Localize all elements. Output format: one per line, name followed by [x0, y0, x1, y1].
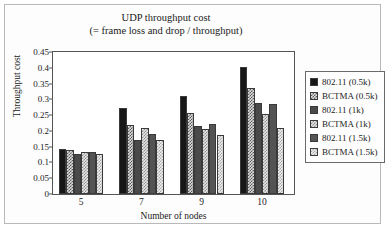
chart-title: UDP throughput cost (= frame loss and dr…	[35, 12, 297, 37]
bar	[247, 88, 254, 194]
bar	[81, 152, 88, 194]
y-axis-tick-label: 0.1	[38, 158, 49, 167]
bar	[240, 67, 247, 194]
x-axis-tick-label: 7	[139, 197, 144, 207]
bar	[141, 128, 148, 194]
bar	[194, 126, 201, 194]
y-axis-tick-label: 0.35	[33, 79, 49, 88]
plot-area	[53, 52, 294, 194]
legend-item: BCTMA (1k)	[310, 117, 381, 131]
x-axis-tick-label: 10	[257, 197, 267, 207]
y-axis-tick-label: 0.05	[33, 174, 49, 183]
legend-swatch-icon	[310, 106, 318, 114]
y-axis-tick-label: 0.4	[38, 63, 49, 72]
x-axis-tick-label: 5	[79, 197, 84, 207]
x-axis-title: Number of nodes	[52, 211, 295, 221]
legend-swatch-icon	[310, 78, 318, 86]
bar	[96, 154, 103, 194]
bar	[255, 103, 262, 194]
legend-item: 802.11 (0.5k)	[310, 75, 381, 89]
bar	[202, 129, 209, 194]
legend-item-label: BCTMA (1.5k)	[322, 148, 378, 157]
legend-item-label: 802.11 (1.5k)	[322, 134, 370, 143]
figure-page-frame: UDP throughput cost (= frame loss and dr…	[4, 4, 381, 224]
bar	[149, 134, 156, 194]
bar	[74, 154, 81, 194]
legend-item-label: 802.11 (1k)	[322, 106, 364, 115]
bar	[156, 140, 163, 194]
chart-legend: 802.11 (0.5k)BCTMA (0.5k)802.11 (1k)BCTM…	[305, 71, 385, 163]
bar	[269, 104, 276, 194]
legend-item-label: 802.11 (0.5k)	[322, 78, 370, 87]
y-axis-tick-label: 0.2	[38, 126, 49, 135]
bar	[209, 124, 216, 194]
y-axis-tick-label: 0.3	[38, 95, 49, 104]
legend-swatch-icon	[310, 92, 318, 100]
legend-item-label: BCTMA (0.5k)	[322, 92, 378, 101]
legend-item: 802.11 (1.5k)	[310, 131, 381, 145]
legend-item-label: BCTMA (1k)	[322, 120, 371, 129]
chart-title-line2: (= frame loss and drop / throughput)	[35, 25, 297, 38]
bar	[180, 96, 187, 194]
bar	[187, 113, 194, 194]
bar	[262, 114, 269, 194]
bar	[134, 140, 141, 194]
legend-item: BCTMA (1.5k)	[310, 145, 381, 159]
bar	[66, 150, 73, 194]
y-axis-tick-label: 0.15	[33, 142, 49, 151]
bar	[127, 125, 134, 194]
legend-swatch-icon	[310, 148, 318, 156]
y-axis-title: Throughput cost	[12, 36, 22, 136]
legend-swatch-icon	[310, 134, 318, 142]
legend-item: BCTMA (0.5k)	[310, 89, 381, 103]
legend-swatch-icon	[310, 120, 318, 128]
bar	[217, 135, 224, 194]
x-axis-tick-label: 9	[199, 197, 204, 207]
bar	[119, 108, 126, 194]
y-axis-tick-label: 0.25	[33, 111, 49, 120]
chart-title-line1: UDP throughput cost	[35, 12, 297, 25]
bar	[277, 128, 284, 194]
bar	[59, 149, 66, 194]
bar	[89, 152, 96, 194]
y-axis-tick-label: 0.45	[33, 48, 49, 57]
legend-item: 802.11 (1k)	[310, 103, 381, 117]
